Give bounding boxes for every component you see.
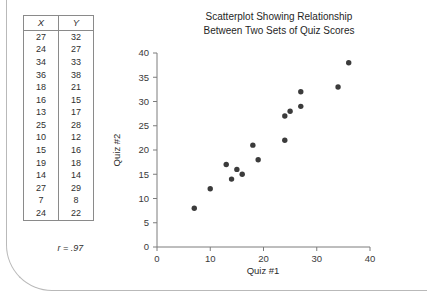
y-tick-label: 10 [138, 193, 149, 204]
data-point [282, 113, 287, 118]
data-point [224, 162, 229, 167]
x-tick-label: 10 [205, 253, 216, 264]
data-point [192, 206, 197, 211]
data-point [298, 89, 303, 94]
table-row: 78 [24, 195, 94, 208]
cell-y: 8 [59, 195, 94, 208]
table-row: 2422 [24, 207, 94, 220]
data-point [240, 172, 245, 177]
y-axis-ticks: 0510152025303540 [138, 47, 157, 252]
cell-x: 24 [24, 44, 59, 57]
y-tick-label: 30 [138, 96, 149, 107]
table-row: 1821 [24, 81, 94, 94]
cell-x: 19 [24, 157, 59, 170]
data-point [282, 138, 287, 143]
x-axis-ticks: 010203040 [154, 247, 375, 264]
cell-y: 27 [59, 44, 94, 57]
table-row: 1918 [24, 157, 94, 170]
y-axis-title: Quiz #2 [111, 134, 122, 167]
data-point [335, 84, 340, 89]
cell-y: 14 [59, 169, 94, 182]
cell-y: 33 [59, 56, 94, 69]
cell-y: 15 [59, 94, 94, 107]
cell-x: 27 [24, 182, 59, 195]
cell-x: 18 [24, 81, 59, 94]
table-row: 3433 [24, 56, 94, 69]
data-point [229, 176, 234, 181]
table-row: 1317 [24, 107, 94, 120]
y-tick-label: 15 [138, 169, 149, 180]
cell-y: 22 [59, 207, 94, 220]
table-row: 1414 [24, 169, 94, 182]
cell-y: 29 [59, 182, 94, 195]
cell-y: 32 [59, 31, 94, 44]
column-header-x: X [24, 16, 59, 31]
x-tick-label: 0 [154, 253, 159, 264]
data-point [208, 186, 213, 191]
y-tick-label: 5 [144, 217, 149, 228]
table-row: 2427 [24, 44, 94, 57]
column-header-y: Y [59, 16, 94, 31]
data-point [287, 109, 292, 114]
data-points-group [192, 60, 352, 211]
data-point [346, 60, 351, 65]
cell-y: 16 [59, 144, 94, 157]
table-row: 1516 [24, 144, 94, 157]
cell-x: 10 [24, 132, 59, 145]
cell-x: 7 [24, 195, 59, 208]
table-body: 2732242734333638182116151317252810121516… [24, 31, 94, 221]
cell-x: 15 [24, 144, 59, 157]
table-row: 3638 [24, 69, 94, 82]
x-axis-title: Quiz #1 [247, 265, 280, 276]
table-header-row: X Y [24, 16, 94, 31]
table-row: 2528 [24, 119, 94, 132]
table-row: 2732 [24, 31, 94, 44]
cell-y: 17 [59, 107, 94, 120]
table-row: 1615 [24, 94, 94, 107]
chart-canvas: 0510152025303540 010203040 Quiz #1 Quiz … [108, 6, 388, 296]
cell-y: 38 [59, 69, 94, 82]
y-tick-label: 0 [144, 241, 149, 252]
data-point [298, 104, 303, 109]
cell-y: 21 [59, 81, 94, 94]
cell-x: 34 [24, 56, 59, 69]
cell-x: 13 [24, 107, 59, 120]
correlation-coefficient-label: r = .97 [23, 243, 118, 253]
cell-y: 18 [59, 157, 94, 170]
x-tick-label: 30 [311, 253, 322, 264]
y-tick-label: 20 [138, 144, 149, 155]
cell-x: 27 [24, 31, 59, 44]
x-tick-label: 20 [258, 253, 269, 264]
cell-x: 36 [24, 69, 59, 82]
cell-x: 16 [24, 94, 59, 107]
cell-x: 25 [24, 119, 59, 132]
cell-y: 28 [59, 119, 94, 132]
table-row: 2729 [24, 182, 94, 195]
y-tick-label: 35 [138, 72, 149, 83]
y-tick-label: 40 [138, 47, 149, 58]
data-table-container: X Y 273224273433363818211615131725281012… [23, 15, 94, 221]
x-tick-label: 40 [365, 253, 376, 264]
data-point [234, 167, 239, 172]
cell-x: 24 [24, 207, 59, 220]
cell-x: 14 [24, 169, 59, 182]
cell-y: 12 [59, 132, 94, 145]
table-row: 1012 [24, 132, 94, 145]
xy-data-table: X Y 273224273433363818211615131725281012… [23, 15, 94, 221]
scatterplot-figure: Scatterplot Showing Relationship Between… [108, 6, 388, 296]
y-tick-label: 25 [138, 120, 149, 131]
data-point [250, 142, 255, 147]
data-point [255, 157, 260, 162]
